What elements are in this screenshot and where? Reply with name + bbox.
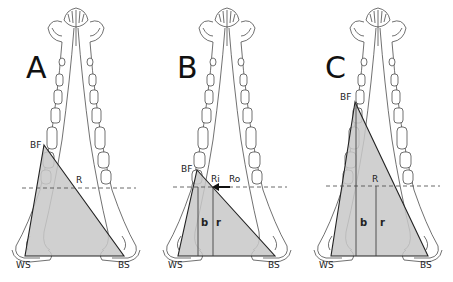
panel-letter: A [26, 50, 47, 85]
label-balancing-side: BS [420, 260, 432, 270]
label-balancing-side: BS [118, 260, 130, 270]
panel-letter: B [177, 50, 198, 85]
label-working-side: WS [168, 260, 183, 270]
label-working-side: WS [16, 260, 31, 270]
label-lever-b: b [360, 217, 367, 228]
bite-force-triangle [331, 102, 428, 256]
label-lever-b: b [201, 217, 208, 228]
panel-a: A BF R WS BS [12, 8, 140, 270]
label-resultant-inner: Ri [211, 174, 220, 184]
label-bite-point: BF [181, 164, 192, 174]
panel-b: B BF Ri Ro b r WS BS [163, 8, 291, 270]
label-resultant: R [372, 174, 378, 184]
panel-letter: C [325, 50, 346, 85]
figure-canvas: A BF R WS BS B BF Ri Ro b r WS BS C BF R… [0, 0, 453, 282]
label-resultant-outer: Ro [229, 174, 241, 184]
label-working-side: WS [319, 260, 334, 270]
label-balancing-side: BS [268, 260, 280, 270]
label-lever-r: r [380, 217, 385, 228]
label-lever-r: r [216, 217, 221, 228]
panel-c: C BF R b r WS BS [314, 8, 442, 270]
label-resultant: R [76, 175, 82, 185]
label-bite-point: BF [340, 92, 351, 102]
label-bite-point: BF [30, 140, 41, 150]
